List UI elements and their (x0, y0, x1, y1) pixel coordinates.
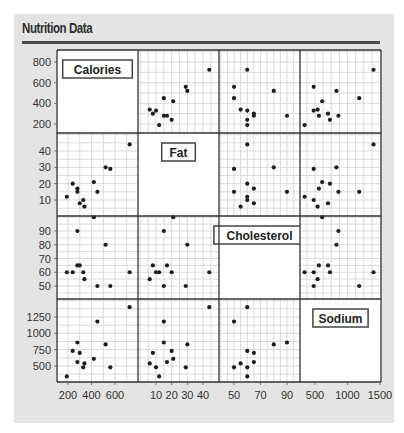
data-point (165, 360, 169, 364)
data-point (245, 108, 249, 112)
data-point (245, 68, 249, 72)
data-point (245, 365, 249, 369)
data-point (171, 357, 175, 361)
data-point (185, 89, 189, 93)
data-point (239, 204, 243, 208)
data-point (104, 243, 108, 247)
panel-sodium-vs-fat (138, 299, 219, 382)
data-point (312, 108, 316, 112)
x-tick-fat: 30 (181, 389, 193, 401)
panel-fat-vs-fat: Fat (138, 133, 219, 216)
data-point (357, 96, 361, 100)
y-tick-cholesterol: 60 (39, 266, 51, 278)
data-point (71, 182, 75, 186)
data-point (252, 201, 256, 205)
data-point (184, 284, 188, 288)
y-tick-cholesterol: 50 (39, 280, 51, 292)
data-point (312, 167, 316, 171)
data-point (148, 361, 152, 365)
y-tick-sodium: 1000 (27, 327, 51, 339)
data-point (334, 243, 338, 247)
data-point (104, 165, 108, 169)
data-point (75, 229, 79, 233)
data-point (252, 351, 256, 355)
x-tick-calories: 600 (106, 389, 124, 401)
panel-sodium-vs-calories (57, 299, 138, 382)
y-tick-fat: 40 (39, 145, 51, 157)
data-point (272, 165, 276, 169)
data-point (245, 118, 249, 122)
data-point (108, 284, 112, 288)
panel-calories-vs-fat (138, 50, 219, 133)
variable-label-sodium: Sodium (319, 312, 363, 326)
x-tick-fat: 20 (166, 389, 178, 401)
data-point (334, 89, 338, 93)
data-point (148, 107, 152, 111)
x-tick-cholesterol: 70 (254, 389, 266, 401)
data-point (232, 85, 236, 89)
data-point (65, 270, 69, 274)
data-point (154, 365, 158, 369)
data-point (326, 201, 330, 205)
data-point (336, 190, 340, 194)
x-tick-sodium: 1000 (335, 389, 359, 401)
data-point (71, 349, 75, 353)
data-point (78, 351, 82, 355)
y-tick-sodium: 500 (33, 360, 51, 372)
data-point (245, 123, 249, 127)
scatterplot-matrix: CaloriesFatCholesterolSodium200400600800… (0, 0, 404, 433)
data-point (285, 340, 289, 344)
data-point (128, 142, 132, 146)
panel-cholesterol-vs-cholesterol: Cholesterol (214, 216, 305, 299)
data-point (148, 277, 152, 281)
data-point (245, 198, 249, 202)
data-point (232, 96, 236, 100)
y-tick-sodium: 750 (33, 344, 51, 356)
data-point (328, 118, 332, 122)
data-point (128, 270, 132, 274)
data-point (252, 186, 256, 190)
data-point (81, 365, 85, 369)
panel-sodium-vs-sodium: Sodium (300, 299, 381, 382)
data-point (357, 190, 361, 194)
data-point (303, 195, 307, 199)
variable-label-calories: Calories (74, 63, 122, 77)
data-point (317, 263, 321, 267)
x-tick-sodium: 1500 (368, 389, 392, 401)
y-tick-sodium: 1250 (27, 311, 51, 323)
data-point (170, 349, 174, 353)
data-point (272, 89, 276, 93)
data-point (371, 142, 375, 146)
data-point (162, 340, 166, 344)
data-point (65, 374, 69, 378)
y-tick-calories: 400 (33, 97, 51, 109)
data-point (162, 114, 166, 118)
data-point (245, 349, 249, 353)
data-point (81, 270, 85, 274)
panel-cholesterol-vs-sodium (300, 215, 381, 299)
y-tick-fat: 10 (39, 194, 51, 206)
data-point (232, 167, 236, 171)
data-point (151, 351, 155, 355)
data-point (316, 204, 320, 208)
data-point (157, 374, 161, 378)
data-point (285, 114, 289, 118)
data-point (312, 270, 316, 274)
data-point (157, 123, 161, 127)
variable-label-cholesterol: Cholesterol (226, 229, 292, 243)
data-point (272, 342, 276, 346)
panel-fat-vs-sodium (300, 133, 381, 216)
data-point (336, 229, 340, 233)
data-point (328, 182, 332, 186)
data-point (75, 190, 79, 194)
data-point (207, 270, 211, 274)
data-point (317, 114, 321, 118)
data-point (317, 186, 321, 190)
data-point (334, 165, 338, 169)
data-point (316, 107, 320, 111)
data-point (151, 263, 155, 267)
data-point (108, 365, 112, 369)
data-point (232, 190, 236, 194)
data-point (92, 180, 96, 184)
data-point (95, 190, 99, 194)
